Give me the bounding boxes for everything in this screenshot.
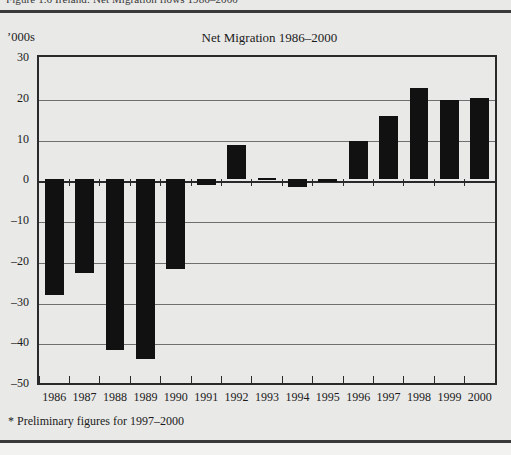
bar-slot bbox=[197, 57, 216, 383]
axis-tick-mark-bottom bbox=[312, 376, 313, 383]
x-axis-tick-labels: 1986198719881989199019911992199319941995… bbox=[37, 390, 497, 408]
y-tick-label: –20 bbox=[11, 253, 29, 268]
axis-tick-mark-bottom bbox=[403, 376, 404, 383]
figure-caption-top: Figure 1.6 Ireland: Net Migration flows … bbox=[6, 0, 238, 5]
axis-tick-mark bbox=[130, 179, 131, 186]
x-tick-label: 1986 bbox=[42, 390, 66, 405]
axis-tick-mark-bottom bbox=[130, 376, 131, 383]
bar bbox=[349, 141, 368, 180]
bar-slot bbox=[75, 57, 94, 383]
axis-tick-mark-bottom bbox=[464, 376, 465, 383]
axis-tick-mark-bottom bbox=[191, 376, 192, 383]
bar bbox=[166, 179, 185, 269]
bar-slot bbox=[470, 57, 489, 383]
x-tick-label: 1993 bbox=[255, 390, 279, 405]
axis-tick-mark bbox=[403, 179, 404, 186]
y-tick-label: 20 bbox=[17, 90, 29, 105]
bar-slot bbox=[318, 57, 337, 383]
bar bbox=[288, 179, 307, 186]
x-tick-label: 1988 bbox=[103, 390, 127, 405]
axis-tick-mark bbox=[99, 179, 100, 186]
bar-slot bbox=[166, 57, 185, 383]
axis-tick-mark bbox=[221, 179, 222, 186]
y-tick-label: 0 bbox=[23, 172, 29, 187]
y-axis-tick-labels: 3020100–10–20–30–40–50 bbox=[0, 55, 33, 385]
bar-slot bbox=[258, 57, 277, 383]
bar bbox=[379, 116, 398, 179]
bar-slot bbox=[227, 57, 246, 383]
y-tick-label: –40 bbox=[11, 335, 29, 350]
y-tick-label: –50 bbox=[11, 376, 29, 391]
axis-tick-mark bbox=[160, 179, 161, 186]
axis-tick-mark-bottom bbox=[434, 376, 435, 383]
axis-tick-mark-bottom bbox=[99, 376, 100, 383]
axis-tick-mark-bottom bbox=[160, 376, 161, 383]
axis-tick-mark bbox=[464, 179, 465, 186]
axis-tick-mark-bottom bbox=[39, 376, 40, 383]
x-tick-label: 1998 bbox=[407, 390, 431, 405]
bar bbox=[440, 100, 459, 179]
bar bbox=[258, 178, 277, 180]
bar bbox=[227, 145, 246, 180]
x-tick-label: 1990 bbox=[164, 390, 188, 405]
axis-tick-mark-bottom bbox=[343, 376, 344, 383]
axis-tick-mark bbox=[495, 179, 496, 186]
bar bbox=[106, 179, 125, 350]
x-tick-label: 1994 bbox=[285, 390, 309, 405]
page-bottom-strip bbox=[0, 443, 511, 455]
x-tick-label: 2000 bbox=[468, 390, 492, 405]
chart-title: Net Migration 1986–2000 bbox=[0, 30, 511, 46]
x-tick-label: 1996 bbox=[346, 390, 370, 405]
x-tick-label: 1989 bbox=[133, 390, 157, 405]
plot-area bbox=[37, 55, 497, 385]
x-tick-label: 1995 bbox=[316, 390, 340, 405]
axis-tick-mark bbox=[343, 179, 344, 186]
axis-tick-mark bbox=[191, 179, 192, 186]
x-tick-label: 1992 bbox=[225, 390, 249, 405]
y-tick-label: 10 bbox=[17, 131, 29, 146]
y-tick-label: –10 bbox=[11, 213, 29, 228]
x-tick-label: 1987 bbox=[73, 390, 97, 405]
bar bbox=[75, 179, 94, 273]
axis-tick-mark bbox=[312, 179, 313, 186]
x-tick-label: 1999 bbox=[437, 390, 461, 405]
axis-tick-mark-bottom bbox=[373, 376, 374, 383]
x-tick-label: 1997 bbox=[377, 390, 401, 405]
axis-tick-mark bbox=[251, 179, 252, 186]
axis-tick-mark bbox=[282, 179, 283, 186]
axis-tick-mark-bottom bbox=[282, 376, 283, 383]
bar-slot bbox=[288, 57, 307, 383]
bar bbox=[470, 98, 489, 180]
bar-slot bbox=[45, 57, 64, 383]
bar-slot bbox=[410, 57, 429, 383]
bar-slot bbox=[379, 57, 398, 383]
axis-tick-mark-bottom bbox=[221, 376, 222, 383]
axis-tick-mark-bottom bbox=[495, 376, 496, 383]
x-tick-label: 1991 bbox=[194, 390, 218, 405]
bar bbox=[318, 179, 337, 181]
bar-slot bbox=[349, 57, 368, 383]
bar bbox=[136, 179, 155, 358]
y-tick-label: –30 bbox=[11, 294, 29, 309]
bar-slot bbox=[440, 57, 459, 383]
axis-tick-mark-bottom bbox=[69, 376, 70, 383]
axis-tick-mark bbox=[69, 179, 70, 186]
bar-slot bbox=[136, 57, 155, 383]
axis-tick-mark bbox=[434, 179, 435, 186]
bar bbox=[410, 88, 429, 180]
horizontal-rule-top bbox=[0, 10, 511, 13]
bar bbox=[45, 179, 64, 295]
axis-tick-mark bbox=[373, 179, 374, 186]
axis-tick-mark-bottom bbox=[251, 376, 252, 383]
bar bbox=[197, 179, 216, 185]
figure-footnote: * Preliminary figures for 1997–2000 bbox=[8, 414, 184, 429]
y-tick-label: 30 bbox=[17, 50, 29, 65]
bar-slot bbox=[106, 57, 125, 383]
bar-series bbox=[39, 57, 495, 383]
